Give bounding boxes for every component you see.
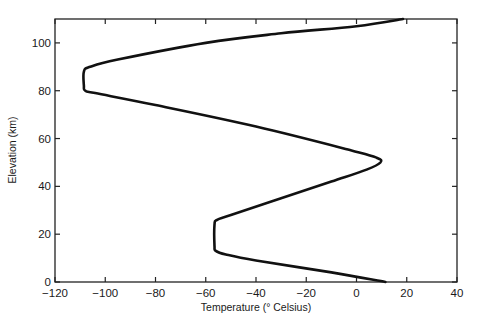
x-tick-label: −100 [92,287,118,299]
y-tick-label: 80 [38,85,51,97]
x-tick-label: 20 [400,287,413,299]
x-tick-label: −120 [42,287,68,299]
x-tick-label: −40 [246,287,266,299]
x-tick-label: −20 [296,287,316,299]
y-tick-label: 20 [38,228,51,240]
plot-frame [55,19,457,282]
y-tick-label: 40 [38,180,51,192]
y-axis: 020406080100 [32,37,457,288]
temperature-elevation-chart: −120−100−80−60−40−2002040 020406080100 T… [0,0,477,330]
y-tick-label: 100 [32,37,51,49]
y-axis-title: Elevation (km) [6,116,18,183]
temperature-profile-line [83,19,403,282]
y-tick-label: 0 [45,276,51,288]
y-tick-label: 60 [38,133,51,145]
x-axis: −120−100−80−60−40−2002040 [42,19,463,299]
x-tick-label: 0 [353,287,359,299]
x-tick-label: −80 [146,287,166,299]
x-axis-title: Temperature (° Celsius) [201,301,311,313]
x-tick-label: 40 [451,287,464,299]
x-tick-label: −60 [196,287,216,299]
